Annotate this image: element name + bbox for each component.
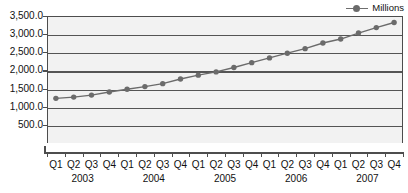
x-axis-tick (83, 152, 84, 157)
x-axis-tick (118, 152, 119, 157)
x-axis-year-label: 2004 (143, 173, 165, 184)
x-axis-tick (189, 152, 190, 157)
x-axis-tick (154, 152, 155, 157)
x-axis-quarter-label: Q2 (209, 159, 222, 170)
plot-area (47, 16, 403, 143)
chart-legend: Millions (346, 1, 404, 15)
legend-label-millions: Millions (372, 3, 404, 13)
x-axis-tick (403, 152, 404, 157)
x-axis-year-label: 2007 (356, 173, 378, 184)
y-axis-tick-label: 1,500.0 (0, 84, 43, 94)
x-axis-tick (314, 152, 315, 157)
x-axis-tick (332, 152, 333, 157)
x-axis-tick (385, 152, 386, 157)
x-axis-tick (225, 152, 226, 157)
x-axis-quarter-label: Q2 (67, 159, 80, 170)
gridline (48, 53, 402, 54)
x-axis-quarter-label: Q3 (85, 159, 98, 170)
x-axis-tick (100, 152, 101, 157)
x-axis-tick (207, 152, 208, 157)
gridline (48, 35, 402, 36)
gridline (48, 108, 402, 109)
gridline (48, 126, 402, 127)
x-axis-tick (296, 152, 297, 157)
x-axis-tick (65, 152, 66, 157)
gridline (48, 71, 402, 72)
x-axis-quarter-label: Q1 (192, 159, 205, 170)
y-axis-tick-label: 2,000.0 (0, 65, 43, 75)
x-axis-tick (47, 152, 48, 157)
x-axis-tick (136, 152, 137, 157)
x-axis-quarter-label: Q4 (316, 159, 329, 170)
x-axis-tick (243, 152, 244, 157)
x-axis-quarter-label: Q3 (298, 159, 311, 170)
x-axis-tick (172, 152, 173, 157)
x-axis-quarter-label: Q2 (352, 159, 365, 170)
x-axis-year-label: 2003 (71, 173, 93, 184)
x-axis-year-label: 2005 (214, 173, 236, 184)
x-axis-year-label: 2006 (285, 173, 307, 184)
x-axis-quarter-label: Q4 (174, 159, 187, 170)
x-axis-quarter-label: Q2 (281, 159, 294, 170)
x-axis-quarter-label: Q3 (370, 159, 383, 170)
y-axis: 3,500.03,000.02,500.02,000.01,500.01,000… (0, 0, 43, 193)
legend-marker-icon (346, 4, 368, 13)
x-axis-quarter-label: Q3 (227, 159, 240, 170)
x-axis-tick (350, 152, 351, 157)
x-axis-quarter-label: Q4 (245, 159, 258, 170)
x-axis-quarter-label: Q1 (120, 159, 133, 170)
x-axis-tick (278, 152, 279, 157)
y-axis-tick-label: 3,500.0 (0, 11, 43, 21)
gridline (48, 90, 402, 91)
y-axis-tick-label: 2,500.0 (0, 47, 43, 57)
x-axis-quarter-label: Q4 (387, 159, 400, 170)
x-axis-tick (261, 152, 262, 157)
y-axis-tick-label: 3,000.0 (0, 29, 43, 39)
x-axis-quarter-label: Q1 (334, 159, 347, 170)
x-axis-quarter-label: Q4 (103, 159, 116, 170)
x-axis-quarter-label: Q3 (156, 159, 169, 170)
x-axis-quarter-label: Q1 (263, 159, 276, 170)
x-axis-quarter-label: Q2 (138, 159, 151, 170)
x-axis-quarter-label: Q1 (49, 159, 62, 170)
line-chart: Millions 3,500.03,000.02,500.02,000.01,5… (0, 0, 408, 193)
y-axis-tick-label: 500.0 (0, 120, 43, 130)
y-axis-tick-label: 1,000.0 (0, 102, 43, 112)
x-axis-tick (367, 152, 368, 157)
